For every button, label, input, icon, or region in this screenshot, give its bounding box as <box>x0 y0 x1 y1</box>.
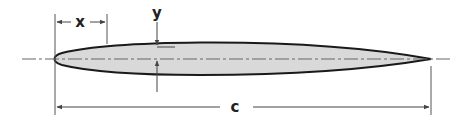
x-label: x <box>75 13 85 31</box>
airfoil-diagram: x y c <box>0 0 474 122</box>
y-label: y <box>152 4 162 22</box>
chord-label: c <box>231 98 240 116</box>
